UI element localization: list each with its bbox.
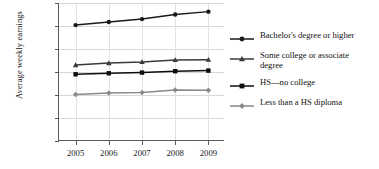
x-axis-tick-mark <box>109 141 110 145</box>
series-layer <box>59 3 225 141</box>
data-point-marker <box>107 20 111 24</box>
data-point-marker <box>172 87 178 93</box>
legend-item[interactable]: Some college or associate degree <box>229 50 379 71</box>
data-point-marker <box>73 72 77 76</box>
data-point-marker <box>107 71 111 75</box>
legend-item[interactable]: Less than a HS diploma <box>229 97 379 110</box>
plot-area: $0$200$400$600$800$1,000$1,200 200520062… <box>58 3 224 141</box>
data-point-marker <box>73 23 77 27</box>
square-marker-icon <box>229 78 255 90</box>
data-point-marker <box>139 90 145 96</box>
legend-item[interactable]: Bachelor's degree or higher <box>229 30 379 43</box>
x-axis-tick-mark <box>142 141 143 145</box>
triangle-marker-icon <box>229 51 255 63</box>
line-chart: Average weekly earnings $0$200$400$600$8… <box>0 0 379 169</box>
data-point-marker <box>206 68 210 72</box>
x-axis-tick-label: 2009 <box>186 148 230 158</box>
legend-item[interactable]: HS—no college <box>229 77 379 90</box>
data-point-marker <box>106 90 112 96</box>
chart-legend: Bachelor's degree or higherSome college … <box>229 30 379 116</box>
x-axis-tick-mark <box>208 141 209 145</box>
legend-item-label: Less than a HS diploma <box>260 97 342 108</box>
legend-item-label: Some college or associate degree <box>260 50 349 71</box>
data-point-marker <box>73 92 79 98</box>
data-point-marker <box>173 12 177 16</box>
diamond-marker-icon <box>229 98 255 110</box>
circle-marker-icon <box>229 31 255 43</box>
legend-item-label: HS—no college <box>260 77 315 88</box>
x-axis-tick-mark <box>175 141 176 145</box>
data-point-marker <box>206 9 210 13</box>
y-axis-title: Average weekly earnings <box>14 0 24 120</box>
data-point-marker <box>206 87 212 93</box>
data-point-marker <box>173 69 177 73</box>
legend-item-label: Bachelor's degree or higher <box>260 30 354 41</box>
data-point-marker <box>140 17 144 21</box>
x-axis-tick-mark <box>76 141 77 145</box>
data-point-marker <box>140 70 144 74</box>
y-axis-tick-mark <box>55 141 59 142</box>
